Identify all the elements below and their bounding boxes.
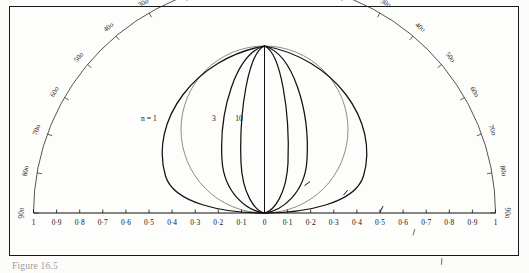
angle-label-60: 60o	[468, 85, 481, 99]
curve-n-3-left	[222, 46, 265, 213]
baseline-label-8: 0·2	[213, 218, 223, 227]
curve-n-10-left	[241, 46, 265, 213]
baseline-label-16: 0·6	[398, 218, 408, 227]
baseline-label-3: 0·7	[98, 218, 108, 227]
baseline-tick-layer	[34, 210, 496, 214]
angle-label-30: 30o	[137, 0, 151, 9]
baseline-label-15: 0·5	[375, 218, 385, 227]
angle-label-40: 40o	[414, 21, 428, 34]
baseline-label-10: 0	[263, 218, 267, 227]
baseline-label-18: 0·8	[444, 218, 454, 227]
angle-ticks	[265, 0, 384, 212]
polar-diagram: 10o20o30o40o50o60o70o80o90o0o10o20o30o40…	[0, 0, 529, 273]
angle-tick	[149, 13, 152, 17]
figure-root: 10o20o30o40o50o60o70o80o90o0o10o20o30o40…	[0, 0, 529, 273]
baseline-label-9: 0·1	[236, 218, 246, 227]
angle-tick	[342, 0, 344, 1]
angle-tick	[47, 134, 52, 136]
baseline-label-4: 0·6	[121, 218, 131, 227]
baseline-label-14: 0·4	[352, 218, 362, 227]
angle-tick	[410, 36, 413, 40]
figure-caption: Figure 16.5	[12, 261, 58, 271]
curve-label-n10: 10	[235, 114, 243, 123]
angle-tick	[460, 98, 464, 101]
angle-tick	[477, 134, 482, 136]
angle-tick	[378, 13, 381, 17]
angle-tick	[37, 173, 42, 174]
angle-label-60: 60o	[48, 85, 61, 99]
curve-n-3-right	[265, 46, 308, 213]
angle-label-40: 40o	[102, 21, 116, 34]
angle-tick	[438, 65, 442, 68]
angle-label-90: 90o	[18, 207, 26, 218]
baseline-label-7: 0·3	[190, 218, 200, 227]
baseline-label-layer: 10·90·80·70·60·50·40·30·20·100·10·20·30·…	[32, 218, 498, 227]
baseline-label-5: 0·5	[144, 218, 154, 227]
baseline-label-12: 0·2	[306, 218, 316, 227]
baseline-label-1: 0·9	[52, 218, 62, 227]
curve-n-10-right	[265, 46, 289, 213]
angle-label-80: 80o	[21, 165, 31, 177]
angle-label-70: 70o	[487, 124, 498, 137]
angle-label-30: 30o	[379, 0, 393, 9]
angle-tick	[487, 173, 492, 174]
angle-label-50: 50o	[444, 51, 457, 65]
baseline-label-13: 0·3	[329, 218, 339, 227]
angle-tick	[64, 98, 68, 101]
angle-tick	[185, 0, 187, 1]
curve-label-group: n = 1 3 10	[141, 114, 243, 123]
pattern-curves	[162, 46, 367, 213]
angle-tick	[116, 36, 119, 40]
angle-label-70: 70o	[31, 123, 42, 136]
curve-label-n1: n = 1	[141, 114, 157, 123]
angle-tick	[88, 65, 92, 68]
angle-label-50: 50o	[72, 50, 85, 64]
baseline-label-0: 1	[32, 218, 36, 227]
baseline-label-11: 0·1	[283, 218, 293, 227]
angle-label-80: 80o	[498, 165, 508, 177]
angle-label-90: 90o	[503, 208, 511, 219]
baseline-label-17: 0·7	[421, 218, 431, 227]
curve-label-n3: 3	[212, 114, 216, 123]
baseline-label-19: 0·9	[467, 218, 477, 227]
baseline-label-20: 1	[494, 218, 498, 227]
baseline-label-2: 0·8	[75, 218, 85, 227]
baseline-label-6: 0·4	[167, 218, 177, 227]
